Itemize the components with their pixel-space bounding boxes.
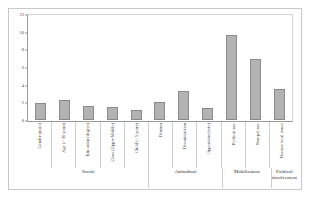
bar-slot	[29, 16, 53, 120]
x-axis-label-slot: Opposition (vote)	[197, 122, 221, 168]
bar-slot	[243, 16, 267, 120]
bar-slot	[220, 16, 244, 120]
bar	[107, 107, 118, 120]
plot-area	[27, 14, 293, 122]
bar-chart-figure: 024681012 Gender (male)Age (> 30 years)E…	[8, 8, 302, 190]
x-axis-label-slot: Gender (male)	[28, 122, 52, 168]
bar	[178, 91, 189, 120]
x-axis-label-slot: Political ass.	[222, 122, 246, 168]
x-axis-category-label: Gender (male)	[37, 123, 42, 148]
x-axis-label-slot: Age (> 30 years)	[52, 122, 76, 168]
x-axis-group-band: SocialAttitudinalMobilizationPolitical i…	[28, 168, 293, 188]
x-axis-label-slot: Discuss local issues	[270, 122, 293, 168]
bar-slot	[196, 16, 220, 120]
bar-slot	[148, 16, 172, 120]
bar-slot	[267, 16, 291, 120]
x-axis-category-label: Class (Upper-Middle)	[110, 123, 115, 162]
x-axis-category-label: Non-pol ass.	[255, 123, 260, 145]
bar-slot	[124, 16, 148, 120]
y-axis-tick-label: 0	[22, 119, 24, 124]
y-axis-tick-label: 2	[22, 101, 24, 106]
bar	[250, 59, 261, 120]
group-label: Social	[82, 169, 95, 175]
bar	[59, 100, 70, 120]
group-cell: Attitudinal	[149, 168, 222, 188]
x-axis-category-label: Age (> 30 years)	[61, 123, 66, 153]
x-axis-label-slot: Education (degree)	[76, 122, 100, 168]
bars-layer	[29, 16, 291, 120]
x-axis-category-labels: Gender (male)Age (> 30 years)Education (…	[28, 122, 293, 168]
x-axis-label-slot: Dissatisfaction	[173, 122, 197, 168]
bar	[154, 102, 165, 120]
y-axis-tick-label: 6	[22, 66, 24, 71]
x-axis-label-slot: Class (Upper-Middle)	[101, 122, 125, 168]
bar	[226, 35, 237, 120]
x-axis-category-label: Discuss local issues	[279, 123, 284, 158]
group-cell: Social	[28, 168, 149, 188]
bar-slot	[77, 16, 101, 120]
y-axis-tick-label: 4	[22, 83, 24, 88]
bar	[202, 108, 213, 120]
bar-slot	[53, 16, 77, 120]
group-cell: Political involvement	[272, 168, 297, 188]
y-axis-tick-label: 8	[22, 48, 24, 53]
bar	[131, 110, 142, 121]
bar	[274, 89, 285, 121]
x-axis-label-slot: Non-pol ass.	[246, 122, 270, 168]
x-axis-category-label: Distrust	[158, 123, 163, 137]
bar	[35, 103, 46, 121]
y-axis-tick-label: 12	[19, 13, 24, 18]
group-label: Mobilization	[234, 169, 260, 175]
x-axis-category-label: Political ass.	[231, 123, 236, 145]
group-label: Attitudinal	[175, 169, 197, 175]
x-axis-label-slot: Child (< 5 years)	[125, 122, 149, 168]
x-axis-category-label: Education (degree)	[85, 123, 90, 157]
y-axis-tick-label: 10	[19, 30, 24, 35]
group-cell: Mobilization	[223, 168, 272, 188]
x-axis-category-label: Dissatisfaction	[182, 123, 187, 149]
x-axis-label-slot: Distrust	[149, 122, 173, 168]
y-axis: 024681012	[9, 14, 27, 122]
bar	[83, 106, 94, 120]
x-axis-category-label: Opposition (vote)	[206, 123, 211, 154]
bar-slot	[172, 16, 196, 120]
x-axis-category-label: Child (< 5 years)	[134, 123, 139, 153]
group-label: Political involvement	[272, 169, 297, 181]
bar-slot	[100, 16, 124, 120]
